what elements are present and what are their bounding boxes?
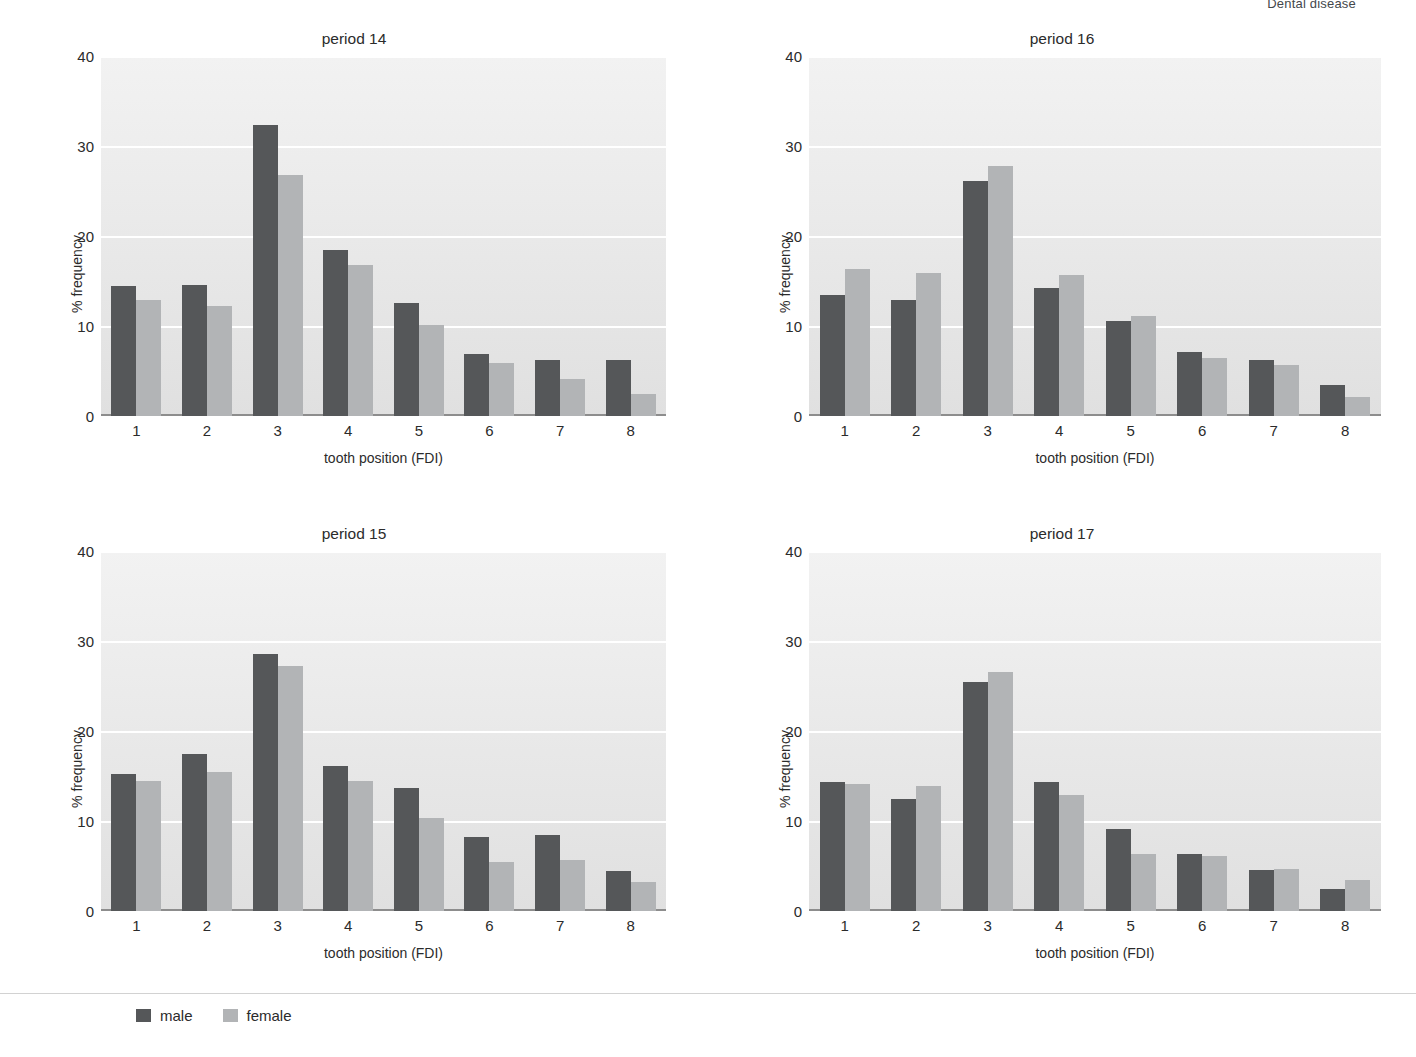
bar-female[interactable] bbox=[560, 379, 585, 416]
bar-female[interactable] bbox=[988, 166, 1013, 416]
plot-area bbox=[101, 56, 666, 416]
bar-female[interactable] bbox=[1202, 856, 1227, 911]
bar-male[interactable] bbox=[535, 835, 560, 911]
bar-group bbox=[525, 551, 596, 911]
plot-area bbox=[101, 551, 666, 911]
bar-female[interactable] bbox=[136, 300, 161, 416]
bar-male[interactable] bbox=[1249, 870, 1274, 911]
bar-male[interactable] bbox=[323, 250, 348, 417]
bar-group bbox=[595, 56, 666, 416]
bar-female[interactable] bbox=[207, 306, 232, 416]
bar-male[interactable] bbox=[111, 774, 136, 911]
x-axis-label: tooth position (FDI) bbox=[101, 450, 666, 466]
bar-female[interactable] bbox=[1131, 854, 1156, 911]
bar-female[interactable] bbox=[631, 394, 656, 417]
bar-female[interactable] bbox=[1274, 869, 1299, 911]
legend-item[interactable]: female bbox=[223, 1007, 292, 1024]
bar-male[interactable] bbox=[1320, 889, 1345, 911]
x-axis-ticks: 12345678 bbox=[101, 917, 666, 941]
legend-item[interactable]: male bbox=[136, 1007, 193, 1024]
bar-male[interactable] bbox=[820, 295, 845, 417]
y-axis-ticks: 010203040 bbox=[54, 56, 94, 416]
bar-male[interactable] bbox=[253, 654, 278, 911]
bar-male[interactable] bbox=[464, 837, 489, 911]
bar-group bbox=[172, 56, 243, 416]
bar-male[interactable] bbox=[394, 788, 419, 911]
bar-group bbox=[101, 56, 172, 416]
bar-female[interactable] bbox=[1059, 275, 1084, 416]
x-axis-tick-label: 1 bbox=[809, 422, 881, 446]
bar-male[interactable] bbox=[464, 354, 489, 416]
bar-group bbox=[1238, 56, 1310, 416]
plot-area bbox=[809, 551, 1381, 911]
bar-male[interactable] bbox=[963, 181, 988, 416]
y-axis-tick-label: 20 bbox=[762, 723, 802, 740]
bar-male[interactable] bbox=[394, 303, 419, 416]
bar-male[interactable] bbox=[1249, 360, 1274, 416]
x-axis-tick-label: 7 bbox=[525, 917, 596, 941]
bar-group bbox=[881, 56, 953, 416]
x-axis-ticks: 12345678 bbox=[101, 422, 666, 446]
bar-female[interactable] bbox=[1059, 795, 1084, 911]
bar-male[interactable] bbox=[535, 360, 560, 416]
bar-female[interactable] bbox=[489, 862, 514, 911]
bar-group bbox=[1167, 551, 1239, 911]
bar-male[interactable] bbox=[606, 871, 631, 911]
bar-male[interactable] bbox=[1106, 829, 1131, 911]
bar-group bbox=[384, 56, 455, 416]
x-axis-label: tooth position (FDI) bbox=[809, 945, 1381, 961]
bar-female[interactable] bbox=[207, 772, 232, 911]
bar-female[interactable] bbox=[916, 273, 941, 416]
bar-male[interactable] bbox=[820, 782, 845, 911]
bar-male[interactable] bbox=[111, 286, 136, 417]
bar-male[interactable] bbox=[963, 682, 988, 911]
bar-female[interactable] bbox=[278, 175, 303, 416]
bar-series-container bbox=[101, 551, 666, 911]
bar-female[interactable] bbox=[1274, 365, 1299, 416]
bar-male[interactable] bbox=[891, 300, 916, 416]
bar-male[interactable] bbox=[1177, 352, 1202, 416]
y-axis-tick-label: 20 bbox=[762, 228, 802, 245]
x-axis-tick-label: 8 bbox=[595, 422, 666, 446]
bar-female[interactable] bbox=[845, 784, 870, 911]
bar-female[interactable] bbox=[631, 882, 656, 911]
bar-female[interactable] bbox=[988, 672, 1013, 911]
bar-male[interactable] bbox=[1320, 385, 1345, 417]
bar-female[interactable] bbox=[136, 781, 161, 912]
bar-female[interactable] bbox=[1131, 316, 1156, 416]
legend-label: male bbox=[160, 1007, 193, 1024]
y-axis-ticks: 010203040 bbox=[54, 551, 94, 911]
bar-male[interactable] bbox=[1106, 321, 1131, 416]
bar-male[interactable] bbox=[1034, 288, 1059, 416]
bar-female[interactable] bbox=[348, 265, 373, 416]
bar-male[interactable] bbox=[182, 754, 207, 912]
bar-female[interactable] bbox=[1345, 880, 1370, 912]
y-axis-tick-label: 0 bbox=[54, 408, 94, 425]
bar-female[interactable] bbox=[916, 786, 941, 911]
bar-female[interactable] bbox=[278, 666, 303, 911]
bar-female[interactable] bbox=[560, 860, 585, 911]
bar-female[interactable] bbox=[1345, 397, 1370, 416]
bar-male[interactable] bbox=[323, 766, 348, 911]
bar-male[interactable] bbox=[891, 799, 916, 911]
y-axis-tick-label: 40 bbox=[762, 543, 802, 560]
bar-female[interactable] bbox=[419, 818, 444, 911]
bar-female[interactable] bbox=[1202, 358, 1227, 416]
bar-male[interactable] bbox=[1177, 854, 1202, 911]
bar-group bbox=[1095, 551, 1167, 911]
chart-panel: period 14% frequency01020304012345678too… bbox=[0, 26, 708, 521]
bar-male[interactable] bbox=[1034, 782, 1059, 911]
bar-female[interactable] bbox=[489, 363, 514, 416]
bar-male[interactable] bbox=[182, 285, 207, 416]
bar-female[interactable] bbox=[419, 325, 444, 416]
bar-male[interactable] bbox=[253, 125, 278, 416]
bar-series-container bbox=[809, 551, 1381, 911]
plot-area bbox=[809, 56, 1381, 416]
x-axis-tick-label: 8 bbox=[1310, 917, 1382, 941]
bar-female[interactable] bbox=[348, 781, 373, 911]
bar-group bbox=[1024, 56, 1096, 416]
y-axis-tick-label: 0 bbox=[54, 903, 94, 920]
bar-male[interactable] bbox=[606, 360, 631, 416]
bar-group bbox=[952, 56, 1024, 416]
bar-female[interactable] bbox=[845, 269, 870, 416]
